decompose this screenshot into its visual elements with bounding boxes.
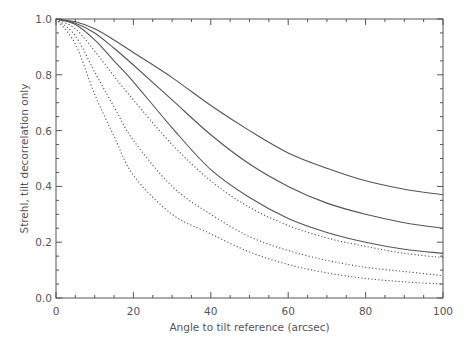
y-tick-label: 0.0 <box>35 292 52 304</box>
y-tick-label: 0.2 <box>35 236 52 248</box>
y-tick-label: 0.6 <box>35 125 52 137</box>
x-axis-ticks: 020406080100 <box>53 19 453 317</box>
series-line-solid-1 <box>56 19 443 195</box>
series-line-solid-2 <box>56 19 443 228</box>
series-line-dotted-3 <box>56 19 443 284</box>
x-tick-label: 0 <box>53 305 60 317</box>
y-tick-label: 1.0 <box>35 13 52 25</box>
y-axis-title: Strehl, tilt decorrelation only <box>18 84 30 234</box>
series-line-solid-3 <box>56 19 443 253</box>
y-tick-label: 0.4 <box>35 180 52 192</box>
x-tick-label: 80 <box>359 305 372 317</box>
y-axis-ticks: 0.00.20.40.60.81.0 <box>35 13 443 304</box>
x-tick-label: 40 <box>204 305 217 317</box>
x-axis-title: Angle to tilt reference (arcsec) <box>169 321 329 333</box>
series-layer <box>56 19 443 284</box>
series-line-dotted-2 <box>56 19 443 276</box>
x-tick-label: 100 <box>433 305 453 317</box>
y-tick-label: 0.8 <box>35 69 52 81</box>
strehl-chart: 020406080100 0.00.20.40.60.81.0 Angle to… <box>0 0 471 344</box>
series-line-dotted-1 <box>56 19 443 258</box>
x-tick-label: 20 <box>127 305 140 317</box>
x-tick-label: 60 <box>282 305 295 317</box>
